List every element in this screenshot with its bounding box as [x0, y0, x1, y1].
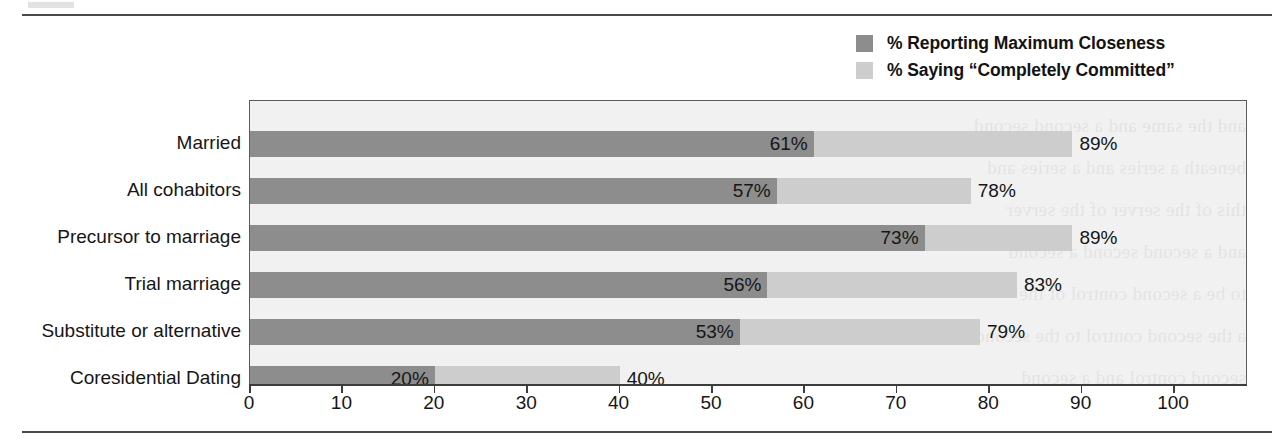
category-label: Coresidential Dating	[70, 365, 241, 391]
x-axis-line	[249, 384, 1247, 386]
bar-row: 61%89%	[250, 131, 1246, 157]
figure-rule-top	[22, 14, 1272, 16]
legend-item-label: % Reporting Maximum Closeness	[887, 33, 1165, 54]
x-tick-label: 100	[1157, 392, 1189, 414]
category-label: Precursor to marriage	[57, 224, 241, 250]
bar-value-label-committed: 79%	[980, 319, 1025, 345]
category-label: Trial marriage	[125, 271, 242, 297]
bar-row: 20%40%	[250, 366, 1246, 385]
legend-swatch-committed	[856, 62, 873, 79]
x-tick-label: 30	[516, 392, 537, 414]
bar-value-label-closeness: 20%	[391, 366, 435, 385]
bar-value-label-committed: 40%	[620, 366, 665, 385]
x-tick-label: 20	[423, 392, 444, 414]
bar-value-label-closeness: 53%	[696, 319, 740, 345]
legend-item: % Saying “Completely Committed”	[856, 57, 1276, 84]
bar-segment-closeness	[250, 272, 767, 298]
bar-value-label-closeness: 57%	[733, 178, 777, 204]
x-tick-label: 10	[331, 392, 352, 414]
bar-value-label-committed: 89%	[1072, 131, 1117, 157]
x-tick-label: 60	[793, 392, 814, 414]
bar-segment-closeness	[250, 319, 740, 345]
bar-segment-closeness	[250, 225, 925, 251]
bar-value-label-committed: 83%	[1017, 272, 1062, 298]
x-tick-label: 90	[1070, 392, 1091, 414]
bar-value-label-closeness: 61%	[770, 131, 814, 157]
x-tick-label: 50	[700, 392, 721, 414]
bar-value-label-committed: 89%	[1072, 225, 1117, 251]
legend-swatch-closeness	[856, 35, 873, 52]
figure-rule-bottom	[22, 431, 1272, 433]
plot-area: and the same and a second secondbeneath …	[249, 100, 1247, 385]
category-axis-labels: MarriedAll cohabitorsPrecursor to marria…	[0, 100, 241, 385]
bar-value-label-closeness: 73%	[881, 225, 925, 251]
legend-item: % Reporting Maximum Closeness	[856, 30, 1276, 57]
bar-value-label-committed: 78%	[971, 178, 1016, 204]
x-tick-label: 0	[244, 392, 255, 414]
bar-row: 53%79%	[250, 319, 1246, 345]
category-label: Married	[177, 130, 241, 156]
x-tick-label: 70	[885, 392, 906, 414]
category-label: Substitute or alternative	[41, 318, 241, 344]
bar-rows: 61%89%57%78%73%89%56%83%53%79%20%40%	[250, 101, 1246, 384]
bar-segment-closeness	[250, 131, 814, 157]
x-tick-label: 40	[608, 392, 629, 414]
chart-legend: % Reporting Maximum Closeness% Saying “C…	[856, 30, 1276, 84]
bar-value-label-closeness: 56%	[723, 272, 767, 298]
caption-bleed-mark	[28, 2, 74, 8]
legend-item-label: % Saying “Completely Committed”	[887, 60, 1175, 81]
bar-row: 73%89%	[250, 225, 1246, 251]
bar-row: 57%78%	[250, 178, 1246, 204]
category-label: All cohabitors	[127, 177, 241, 203]
x-tick-label: 80	[978, 392, 999, 414]
bar-row: 56%83%	[250, 272, 1246, 298]
bar-segment-closeness	[250, 178, 777, 204]
